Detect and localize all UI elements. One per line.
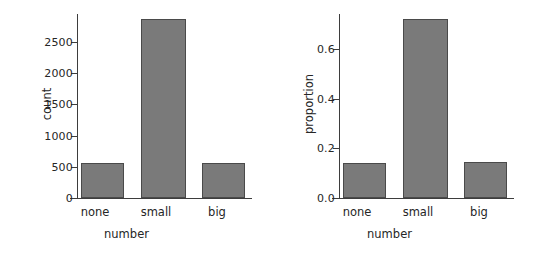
bar-small[interactable]: [141, 19, 186, 198]
x-axis-line-left: [70, 198, 252, 199]
x-axis-title-left: number: [0, 228, 261, 240]
figure-panel-pair: 0 500 1000 1500 2000 2500 none small big…: [0, 0, 538, 254]
bar-big[interactable]: [202, 163, 245, 198]
x-ticklabel-left-small: small: [131, 206, 181, 218]
x-ticklabel-right-small: small: [393, 206, 443, 218]
bar-none[interactable]: [343, 163, 386, 198]
bar-small[interactable]: [403, 19, 448, 198]
chart-proportion: 0.0 0.2 0.4 0.6 none small big number pr…: [269, 0, 538, 254]
y-ticklabel-right-06: 0.6: [317, 44, 335, 55]
y-axis-title-left: count: [40, 10, 54, 198]
x-axis-title-right: number: [255, 228, 524, 240]
chart-count: 0 500 1000 1500 2000 2500 none small big…: [0, 0, 269, 254]
y-ticklabel-left-0: 0: [66, 193, 73, 204]
bar-none[interactable]: [81, 163, 124, 198]
x-ticklabel-right-none: none: [332, 206, 382, 218]
x-ticklabel-left-big: big: [193, 206, 241, 218]
y-axis-title-right: proportion: [302, 10, 316, 198]
bar-big[interactable]: [464, 162, 507, 198]
bars-group-left: [78, 10, 250, 198]
x-axis-line-right: [332, 198, 514, 199]
y-ticklabel-right-00: 0.0: [317, 193, 335, 204]
y-ticklabel-right-04: 0.4: [317, 94, 335, 105]
x-ticklabel-right-big: big: [455, 206, 503, 218]
x-ticklabel-left-none: none: [70, 206, 120, 218]
y-ticklabel-right-02: 0.2: [317, 143, 335, 154]
y-ticklabel-left-500: 500: [51, 162, 73, 173]
bars-group-right: [340, 10, 512, 198]
